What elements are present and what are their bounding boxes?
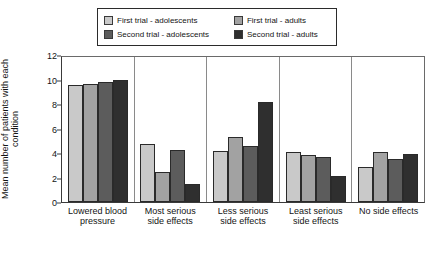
bar <box>155 172 170 202</box>
legend-item-second-trial-adults: Second trial - adults <box>234 30 330 39</box>
y-axis-tick-label: 12 <box>47 52 57 61</box>
bar-group-bars <box>358 57 418 202</box>
x-axis-label: Lowered blood pressure <box>61 206 134 226</box>
y-axis-tick-label: 10 <box>47 76 57 85</box>
legend-item-second-trial-adolescents: Second trial - adolescents <box>104 30 234 39</box>
bar-group-bars <box>286 57 346 202</box>
bar <box>388 159 403 203</box>
legend-swatch-second-trial-adolescents <box>104 30 113 39</box>
bar-group-bars <box>213 57 273 202</box>
bar <box>170 150 185 202</box>
bar-group <box>135 57 208 202</box>
bar <box>301 155 316 202</box>
x-axis-label: Less serious side effects <box>207 206 280 226</box>
y-axis-title: Mean number of patients with each condit… <box>0 0 20 52</box>
bar <box>228 137 243 202</box>
y-axis-title-text: Mean number of patients with each condit… <box>0 54 20 204</box>
bar <box>286 152 301 202</box>
bar <box>243 146 258 202</box>
bar-group <box>352 57 424 202</box>
bar <box>140 144 155 202</box>
bar <box>113 80 128 202</box>
bar-group-bars <box>68 57 128 202</box>
x-axis-label: Most serious side effects <box>134 206 207 226</box>
bar-group <box>280 57 353 202</box>
bar <box>98 82 113 202</box>
bar <box>403 154 418 202</box>
x-axis-label: Least serious side effects <box>279 206 352 226</box>
bar-group-bars <box>140 57 200 202</box>
legend-row-2: Second trial - adolescents Second trial … <box>104 27 330 41</box>
bar <box>316 157 331 202</box>
legend-label-second-trial-adults: Second trial - adults <box>247 30 318 39</box>
bar <box>83 84 98 202</box>
bar <box>358 167 373 202</box>
legend-label-second-trial-adolescents: Second trial - adolescents <box>117 30 209 39</box>
bar <box>373 152 388 202</box>
bar <box>331 176 346 202</box>
legend-item-first-trial-adults: First trial - adults <box>234 16 330 25</box>
legend-swatch-first-trial-adults <box>234 16 243 25</box>
bar-group <box>62 57 135 202</box>
legend-item-first-trial-adolescents: First trial - adolescents <box>104 16 234 25</box>
legend-swatch-first-trial-adolescents <box>104 16 113 25</box>
plot-area <box>61 56 425 203</box>
bar <box>258 102 273 202</box>
bar <box>213 151 228 202</box>
legend-swatch-second-trial-adults <box>234 30 243 39</box>
bar-group <box>207 57 280 202</box>
x-axis-labels: Lowered blood pressureMost serious side … <box>61 206 425 226</box>
bar <box>185 184 200 202</box>
bar <box>68 85 83 202</box>
legend-label-first-trial-adults: First trial - adults <box>247 16 306 25</box>
legend-label-first-trial-adolescents: First trial - adolescents <box>117 16 197 25</box>
chart-legend: First trial - adolescents First trial - … <box>97 8 337 46</box>
x-axis-label: No side effects <box>352 206 425 226</box>
bar-groups <box>62 57 424 202</box>
legend-row-1: First trial - adolescents First trial - … <box>104 13 330 27</box>
